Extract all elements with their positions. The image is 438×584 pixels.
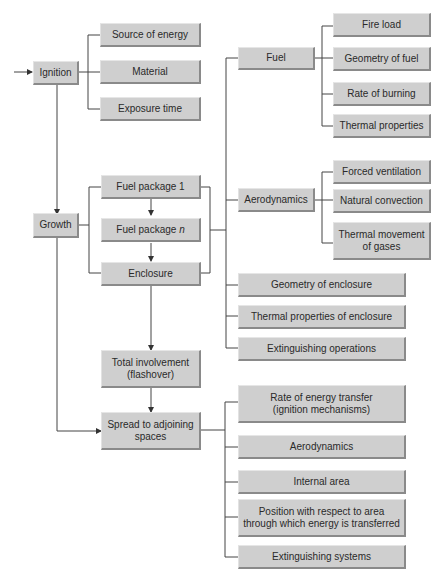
node-fuel-package-n: Fuel package n bbox=[101, 218, 201, 242]
node-label: Fuel package n bbox=[116, 224, 184, 236]
node-label-line1: Total involvement bbox=[112, 357, 189, 369]
node-label-line2: through which energy is transferred bbox=[243, 518, 400, 530]
node-label-line1: Thermal movement bbox=[338, 229, 424, 241]
node-thermal-properties: Thermal properties bbox=[333, 114, 431, 138]
node-material: Material bbox=[100, 60, 201, 84]
node-label: Natural convection bbox=[340, 195, 423, 207]
node-rate-of-burning: Rate of burning bbox=[333, 82, 431, 106]
node-label: Aerodynamics bbox=[244, 194, 307, 206]
node-label: Extinguishing operations bbox=[267, 343, 376, 355]
node-position-wrt-area: Position with respect to area through wh… bbox=[238, 499, 406, 537]
node-rate-of-energy-transfer: Rate of energy transfer (ignition mechan… bbox=[238, 385, 406, 423]
node-natural-convection: Natural convection bbox=[333, 189, 431, 213]
node-geometry-of-fuel: Geometry of fuel bbox=[333, 47, 431, 71]
node-label: Internal area bbox=[293, 476, 349, 488]
node-label: Fire load bbox=[362, 19, 401, 31]
node-label: Geometry of enclosure bbox=[271, 279, 372, 291]
label-variable: n bbox=[179, 224, 185, 235]
node-aerodynamics-spread: Aerodynamics bbox=[238, 435, 406, 459]
node-label: Forced ventilation bbox=[342, 166, 421, 178]
node-extinguishing-operations: Extinguishing operations bbox=[238, 337, 406, 361]
node-internal-area: Internal area bbox=[238, 470, 406, 494]
node-ignition: Ignition bbox=[33, 61, 79, 85]
node-label: Aerodynamics bbox=[290, 441, 353, 453]
node-extinguishing-systems: Extinguishing systems bbox=[238, 545, 406, 569]
fire-development-diagram: Ignition Source of energy Material Expos… bbox=[0, 0, 438, 584]
node-label: Material bbox=[132, 66, 168, 78]
node-fuel-package-1: Fuel package 1 bbox=[101, 175, 201, 199]
node-label-line1: Position with respect to area bbox=[259, 506, 385, 518]
node-label-line1: Spread to adjoining bbox=[107, 419, 193, 431]
node-total-involvement: Total involvement (flashover) bbox=[101, 350, 201, 388]
node-label: Thermal properties bbox=[340, 120, 424, 132]
node-fuel: Fuel bbox=[238, 47, 315, 70]
node-label-line2: spaces bbox=[135, 431, 167, 443]
node-label: Thermal properties of enclosure bbox=[251, 311, 392, 323]
node-growth: Growth bbox=[33, 213, 79, 238]
node-label: Enclosure bbox=[128, 268, 172, 280]
node-label-line1: Rate of energy transfer bbox=[270, 392, 372, 404]
node-aerodynamics: Aerodynamics bbox=[238, 188, 315, 212]
node-thermal-movement-of-gases: Thermal movement of gases bbox=[333, 222, 431, 260]
node-label-line2: (ignition mechanisms) bbox=[273, 404, 370, 416]
node-label: Growth bbox=[39, 219, 71, 231]
node-label: Source of energy bbox=[112, 29, 188, 41]
node-label: Fuel bbox=[266, 52, 285, 64]
node-spread-to-adjoining-spaces: Spread to adjoining spaces bbox=[101, 412, 201, 450]
label-prefix: Fuel package bbox=[116, 224, 179, 235]
node-enclosure: Enclosure bbox=[101, 262, 201, 286]
node-label: Geometry of fuel bbox=[345, 53, 419, 65]
node-label: Fuel package 1 bbox=[116, 181, 184, 193]
node-label: Extinguishing systems bbox=[272, 551, 371, 563]
node-fire-load: Fire load bbox=[333, 13, 431, 37]
node-geometry-of-enclosure: Geometry of enclosure bbox=[238, 273, 406, 297]
node-exposure-time: Exposure time bbox=[100, 97, 201, 121]
node-label: Rate of burning bbox=[347, 88, 415, 100]
node-label: Ignition bbox=[39, 67, 71, 79]
node-label-line2: of gases bbox=[363, 241, 401, 253]
node-label: Exposure time bbox=[118, 103, 182, 115]
node-thermal-properties-of-enclosure: Thermal properties of enclosure bbox=[238, 305, 406, 329]
node-label-line2: (flashover) bbox=[127, 369, 174, 381]
node-source-of-energy: Source of energy bbox=[100, 23, 201, 47]
node-forced-ventilation: Forced ventilation bbox=[333, 160, 431, 184]
